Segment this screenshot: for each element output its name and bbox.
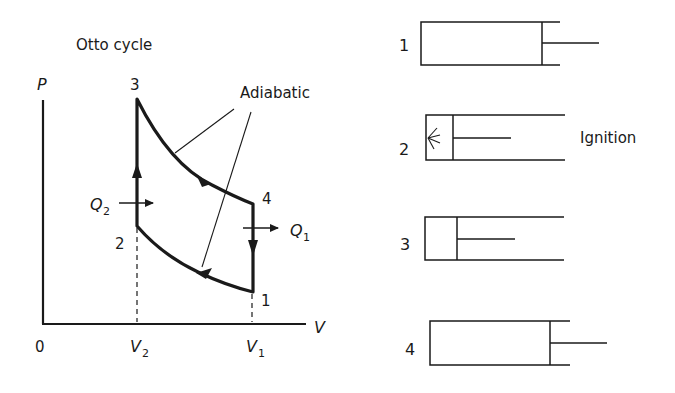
svg-text:1: 1 — [258, 347, 265, 360]
svg-text:Q: Q — [90, 195, 103, 214]
heat-out-label: Q 1 — [290, 221, 310, 244]
piston-1 — [421, 22, 599, 65]
state-4-label: 4 — [262, 190, 272, 208]
piston-3-label: 3 — [400, 235, 410, 254]
state-3-label: 3 — [130, 76, 140, 94]
svg-text:1: 1 — [303, 231, 310, 244]
svg-text:V: V — [246, 337, 258, 356]
svg-text:V: V — [130, 337, 142, 356]
origin-label: 0 — [35, 338, 45, 356]
diagram-title: Otto cycle — [76, 36, 152, 54]
pv-diagram: Otto cycle P V 0 V 2 V 1 Q 2 — [35, 36, 326, 360]
ignition-label: Ignition — [580, 129, 636, 147]
state-2-label: 2 — [115, 235, 125, 253]
state-1-label: 1 — [261, 292, 271, 310]
p-axis-label: P — [37, 75, 47, 94]
arrow-4-to-1-icon — [248, 240, 258, 256]
svg-text:2: 2 — [103, 205, 110, 218]
cycle-path — [137, 99, 253, 292]
piston-4 — [430, 321, 607, 365]
v2-tick-label: V 2 — [130, 337, 149, 360]
svg-text:Q: Q — [290, 221, 303, 240]
adiabatic-label: Adiabatic — [240, 84, 310, 102]
piston-2-label: 2 — [399, 140, 409, 159]
spark-icon — [428, 128, 440, 149]
adiabatic-leader-line-upper — [175, 109, 234, 153]
piston-diagrams — [421, 22, 607, 365]
piston-2 — [426, 115, 565, 160]
piston-1-label: 1 — [399, 36, 409, 55]
svg-text:2: 2 — [142, 347, 149, 360]
otto-cycle-figure: Otto cycle P V 0 V 2 V 1 Q 2 — [0, 0, 675, 393]
arrow-2-to-3-icon — [132, 163, 142, 178]
piston-3 — [425, 217, 564, 260]
heat-in-label: Q 2 — [90, 195, 110, 218]
v1-tick-label: V 1 — [246, 337, 265, 360]
adiabatic-leader-line-lower — [202, 112, 251, 267]
piston-4-label: 4 — [405, 340, 415, 359]
v-axis-label: V — [314, 318, 326, 337]
